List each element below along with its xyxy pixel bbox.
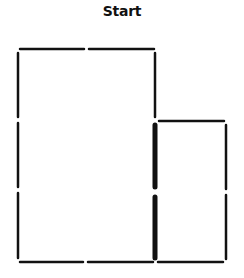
matchstick-diagram <box>0 0 244 278</box>
